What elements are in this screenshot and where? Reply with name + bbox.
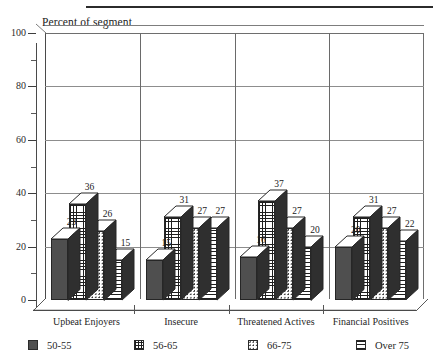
x-axis-tick (229, 305, 230, 314)
y-axis-tick-label-text: 40 (2, 187, 26, 198)
legend-swatch (356, 340, 366, 350)
y-axis-tick-major (28, 140, 36, 141)
panel-separator (329, 33, 330, 300)
y-axis-tick-label-text: 0 (2, 294, 26, 305)
legend-item-50-55[interactable]: 50-55 (28, 336, 72, 354)
y-axis-tick-minor (31, 60, 36, 61)
legend-label: 66-75 (267, 340, 292, 351)
y-axis-tick-label-text: 80 (2, 80, 26, 91)
chart-title: Percent of segment (42, 16, 132, 28)
panel-separator (235, 33, 236, 300)
y-axis-tick-minor (31, 113, 36, 114)
y-axis-tick-major (28, 33, 36, 34)
legend-item-over-75[interactable]: Over 75 (356, 336, 409, 354)
x-axis-category-label: Insecure (134, 316, 229, 327)
y-axis-tick-minor (31, 273, 36, 274)
x-axis-tick (323, 305, 324, 314)
y-axis-tick-major (28, 86, 36, 87)
legend-label: Over 75 (375, 340, 409, 351)
y-axis-tick-label-text: 60 (2, 134, 26, 145)
plot-depth-corner-topleft (36, 24, 47, 34)
legend-swatch (248, 340, 258, 350)
y-axis-tick-minor (31, 220, 36, 221)
legend-item-66-75[interactable]: 66-75 (248, 336, 292, 354)
chart-legend: 50-5556-6566-75Over 75 (0, 336, 433, 358)
legend-item-56-65[interactable]: 56-65 (134, 336, 178, 354)
legend-swatch (28, 340, 38, 350)
x-axis-category-label: Threatened Actives (229, 316, 324, 327)
y-axis-tick-major (28, 193, 36, 194)
plot-depth-top-edge (45, 25, 424, 26)
legend-label: 50-55 (47, 340, 72, 351)
x-axis-category-label: Financial Positives (323, 316, 418, 327)
plot-area (45, 33, 424, 300)
x-axis-category-label: Upbeat Enjoyers (39, 316, 134, 327)
legend-label: 56-65 (153, 340, 178, 351)
plot-floor (33, 299, 428, 311)
y-axis-tick-major (28, 247, 36, 248)
legend-swatch (134, 340, 144, 350)
y-axis-tick-minor (31, 167, 36, 168)
header-rule (86, 6, 433, 8)
y-axis-tick-label-text: 100 (2, 27, 26, 38)
panel-separator (140, 33, 141, 300)
y-axis-tick-label-text: 20 (2, 241, 26, 252)
y-axis-line (36, 43, 37, 311)
x-axis-tick (134, 305, 135, 314)
